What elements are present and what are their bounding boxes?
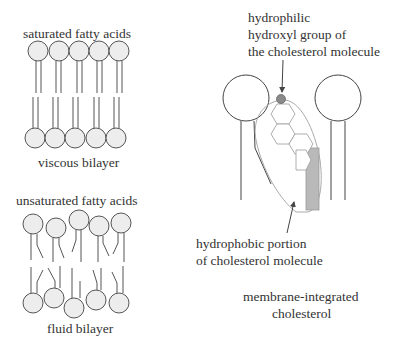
fluid-bilayer [23,210,131,318]
hydroxyl-group [277,95,286,104]
hydrophilic-arrow [282,60,283,92]
diagram-canvas [0,0,398,349]
viscous-bilayer [25,41,129,148]
steroid-rings [271,104,313,170]
